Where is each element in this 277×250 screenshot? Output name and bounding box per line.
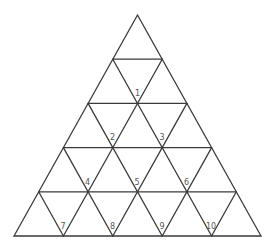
vertex-label-10: 10 <box>206 222 216 231</box>
diagonal-left-2 <box>113 103 187 236</box>
triangle-grid-diagram: 1 2 3 4 5 6 7 8 9 10 <box>0 0 277 250</box>
grid-lines <box>14 15 261 236</box>
vertex-label-2: 2 <box>110 133 115 142</box>
vertex-label-4: 4 <box>85 178 90 187</box>
vertex-label-5: 5 <box>134 178 139 187</box>
vertex-label-9: 9 <box>159 222 164 231</box>
vertex-label-1: 1 <box>135 89 140 98</box>
vertex-label-3: 3 <box>159 133 164 142</box>
vertex-label-6: 6 <box>184 178 189 187</box>
diagonal-right-2 <box>88 103 162 236</box>
vertex-label-8: 8 <box>110 222 115 231</box>
vertex-label-7: 7 <box>60 222 65 231</box>
outer-triangle <box>14 15 261 236</box>
